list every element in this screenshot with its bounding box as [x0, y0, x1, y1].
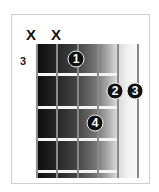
start-fret-label: 3 [20, 55, 26, 67]
finger-dot-3: 3 [127, 83, 144, 100]
finger-dot-2: 2 [107, 83, 124, 100]
finger-dot-4: 4 [87, 115, 104, 132]
fretboard [36, 44, 139, 178]
mute-marker-string-5: X [51, 27, 61, 42]
string-6 [36, 44, 38, 178]
string-1 [137, 44, 139, 178]
string-2 [117, 44, 119, 178]
string-5 [56, 44, 58, 178]
string-3 [97, 44, 99, 178]
mute-marker-string-6: X [26, 27, 36, 42]
finger-dot-1: 1 [68, 51, 85, 68]
